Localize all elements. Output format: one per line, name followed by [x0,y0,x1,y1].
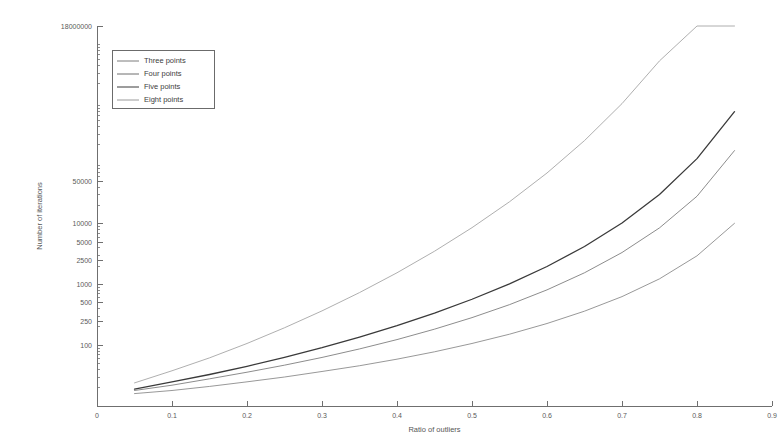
y-tick-label: 100 [80,342,92,349]
x-tick-label: 0.2 [242,412,252,419]
x-axis-tick-labels: 00.10.20.30.40.50.60.70.80.9 [95,412,777,419]
y-axis-title: Number of iterations [35,182,44,250]
y-tick-label: 500 [80,299,92,306]
legend-item-label: Three points [144,56,186,65]
x-axis-title: Ratio of outliers [408,425,460,434]
y-axis-major-ticks [97,26,103,345]
x-tick-label: 0.6 [542,412,552,419]
y-tick-label: 250 [80,318,92,325]
series-line-five-points [135,112,735,389]
x-tick-label: 0.3 [317,412,327,419]
legend-item-label: Eight points [144,95,183,104]
legend-item-label: Five points [144,82,181,91]
x-axis-major-ticks [97,401,772,406]
x-tick-label: 0.1 [167,412,177,419]
series-line-four-points [135,151,735,391]
x-tick-label: 0.5 [467,412,477,419]
chart-container: 100250500100025005000100005000018000000 … [0,0,784,440]
x-tick-label: 0.7 [617,412,627,419]
x-tick-label: 0 [95,412,99,419]
series-lines [135,26,735,394]
series-line-three-points [135,223,735,393]
x-tick-label: 0.9 [767,412,777,419]
y-tick-label: 1000 [76,281,92,288]
y-tick-label: 2500 [76,257,92,264]
y-tick-label: 50000 [73,178,93,185]
y-axis-tick-labels: 100250500100025005000100005000018000000 [61,23,92,349]
y-tick-label: 5000 [76,239,92,246]
x-tick-label: 0.4 [392,412,402,419]
y-tick-label: 10000 [73,220,93,227]
legend: Three pointsFour pointsFive pointsEight … [112,50,214,108]
legend-item-label: Four points [144,69,182,78]
line-chart: 100250500100025005000100005000018000000 … [0,0,784,440]
y-tick-label: 18000000 [61,23,92,30]
x-tick-label: 0.8 [692,412,702,419]
